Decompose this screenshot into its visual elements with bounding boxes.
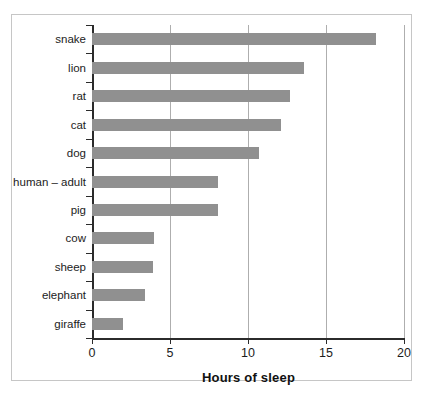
y-axis-label-sheep: sheep bbox=[55, 261, 86, 273]
plot-area bbox=[92, 25, 404, 338]
bar-pig bbox=[92, 204, 218, 216]
x-tick-mark-0 bbox=[92, 338, 93, 344]
y-axis-label-elephant: elephant bbox=[42, 289, 86, 301]
y-tick-mark-7 bbox=[86, 224, 92, 225]
bar-giraffe bbox=[92, 318, 123, 330]
y-axis-label-snake: snake bbox=[55, 33, 86, 45]
bar-human-adult bbox=[92, 176, 218, 188]
y-tick-mark-8 bbox=[86, 253, 92, 254]
bar-sheep bbox=[92, 261, 153, 273]
y-axis-label-cat: cat bbox=[71, 119, 86, 131]
x-tick-mark-10 bbox=[248, 338, 249, 344]
gridline-x-20 bbox=[404, 25, 405, 338]
bar-cat bbox=[92, 119, 281, 131]
x-tick-label-5: 5 bbox=[167, 346, 174, 360]
y-tick-mark-0 bbox=[86, 25, 92, 26]
y-tick-mark-3 bbox=[86, 110, 92, 111]
y-axis-label-pig: pig bbox=[71, 204, 86, 216]
x-tick-mark-5 bbox=[170, 338, 171, 344]
bar-lion bbox=[92, 62, 304, 74]
y-tick-mark-4 bbox=[86, 139, 92, 140]
y-axis-label-human-adult: human – adult bbox=[13, 176, 86, 188]
y-tick-mark-11 bbox=[86, 338, 92, 339]
bar-snake bbox=[92, 33, 376, 45]
x-tick-label-10: 10 bbox=[241, 346, 255, 360]
gridline-x-15 bbox=[326, 25, 327, 338]
y-axis-label-rat: rat bbox=[73, 90, 86, 102]
y-tick-mark-9 bbox=[86, 281, 92, 282]
y-axis-label-dog: dog bbox=[67, 147, 86, 159]
y-tick-mark-6 bbox=[86, 196, 92, 197]
x-tick-mark-15 bbox=[326, 338, 327, 344]
y-tick-mark-2 bbox=[86, 82, 92, 83]
y-tick-mark-1 bbox=[86, 53, 92, 54]
x-tick-label-0: 0 bbox=[89, 346, 96, 360]
bar-cow bbox=[92, 232, 154, 244]
bar-dog bbox=[92, 147, 259, 159]
x-tick-mark-20 bbox=[404, 338, 405, 344]
chart-figure: snakelionratcatdoghuman – adultpigcowshe… bbox=[11, 14, 412, 381]
y-tick-mark-10 bbox=[86, 310, 92, 311]
bar-rat bbox=[92, 90, 290, 102]
y-axis-label-lion: lion bbox=[68, 62, 86, 74]
bar-elephant bbox=[92, 289, 145, 301]
x-axis-title: Hours of sleep bbox=[92, 370, 405, 385]
x-tick-label-15: 15 bbox=[319, 346, 333, 360]
x-tick-label-20: 20 bbox=[397, 346, 411, 360]
y-tick-mark-5 bbox=[86, 167, 92, 168]
y-axis-label-giraffe: giraffe bbox=[54, 318, 86, 330]
y-axis-label-cow: cow bbox=[66, 232, 86, 244]
y-axis-category-labels: snakelionratcatdoghuman – adultpigcowshe… bbox=[12, 25, 86, 338]
